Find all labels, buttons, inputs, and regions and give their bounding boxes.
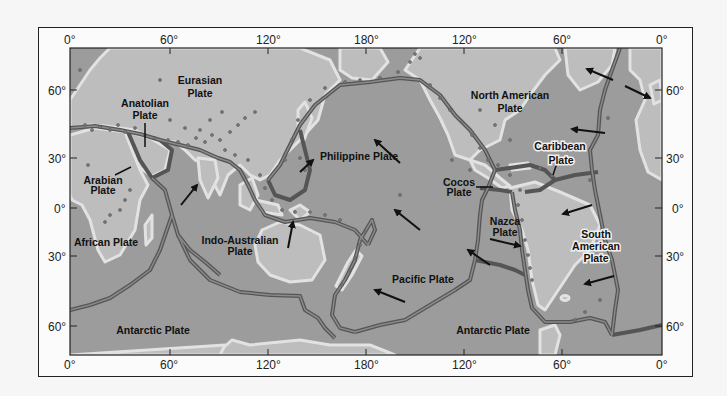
right-axis-labels: 60° 30° 0° 30° 60° xyxy=(666,84,684,334)
label-pacific: Pacific Plate xyxy=(392,273,454,285)
tick-bottom-1: 60° xyxy=(160,358,178,372)
tick-bottom-4: 120° xyxy=(452,358,477,372)
label-south-american-1: South xyxy=(581,228,611,240)
tick-left-2: 0° xyxy=(54,202,66,216)
label-eurasian-2: Plate xyxy=(187,87,212,99)
label-indo-australian-2: Plate xyxy=(227,245,252,257)
label-antarctic-west: Antarctic Plate xyxy=(116,324,190,336)
tick-left-3: 30° xyxy=(48,250,66,264)
tick-top-1: 60° xyxy=(160,33,178,47)
left-axis-labels: 60° 30° 0° 30° 60° xyxy=(48,84,66,334)
tick-bottom-3: 180° xyxy=(354,358,379,372)
label-caribbean-2: Plate xyxy=(548,154,573,166)
bottom-axis-labels: 0° 60° 120° 180° 120° 60° 0° xyxy=(64,358,668,372)
label-south-american-2: American xyxy=(572,240,620,252)
tectonic-plate-map: 0° 60° 120° 180° 120° 60° 0° 0° 60° 120°… xyxy=(0,0,727,396)
label-eurasian-1: Eurasian xyxy=(178,74,222,86)
label-philippine: Philippine Plate xyxy=(320,150,398,162)
tick-top-0: 0° xyxy=(64,33,76,47)
label-antarctic-east: Antarctic Plate xyxy=(456,324,530,336)
tick-bottom-5: 60° xyxy=(553,358,571,372)
tick-bottom-0: 0° xyxy=(64,358,76,372)
tick-left-4: 60° xyxy=(48,320,66,334)
tick-right-2: 0° xyxy=(672,202,684,216)
tick-right-3: 30° xyxy=(666,250,684,264)
label-anatolian-1: Anatolian xyxy=(121,97,169,109)
tick-left-1: 30° xyxy=(48,152,66,166)
label-south-american-3: Plate xyxy=(583,252,608,264)
tick-left-0: 60° xyxy=(48,84,66,98)
tick-top-5: 60° xyxy=(553,33,571,47)
tick-top-3: 180° xyxy=(354,33,379,47)
label-cocos-2: Plate xyxy=(446,186,471,198)
tick-top-4: 120° xyxy=(452,33,477,47)
top-axis-labels: 0° 60° 120° 180° 120° 60° 0° xyxy=(64,33,668,47)
tick-right-0: 60° xyxy=(666,84,684,98)
label-caribbean-1: Caribbean xyxy=(534,140,585,152)
label-anatolian-2: Plate xyxy=(132,109,157,121)
label-arabian-2: Plate xyxy=(90,184,115,196)
tick-top-6: 0° xyxy=(656,33,668,47)
tick-bottom-6: 0° xyxy=(656,358,668,372)
tick-right-4: 60° xyxy=(666,320,684,334)
label-nazca-2: Plate xyxy=(492,226,517,238)
label-african: African Plate xyxy=(74,236,138,248)
label-north-american-1: North American xyxy=(471,89,549,101)
tick-top-2: 120° xyxy=(256,33,281,47)
tick-bottom-2: 120° xyxy=(256,358,281,372)
label-north-american-2: Plate xyxy=(497,102,522,114)
tick-right-1: 30° xyxy=(666,152,684,166)
